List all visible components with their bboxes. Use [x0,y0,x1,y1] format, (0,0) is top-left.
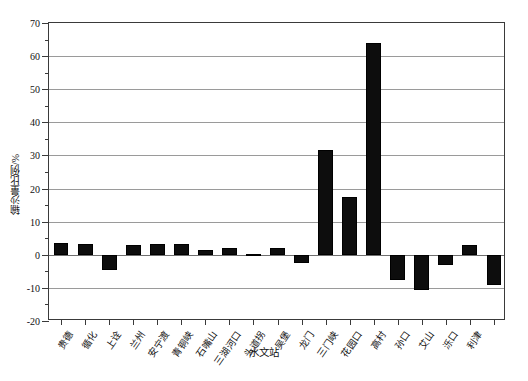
y-tick-minor [45,139,49,140]
bar [318,150,333,254]
y-tick-label: 30 [30,150,40,161]
bar [438,255,453,265]
gridline [49,89,504,90]
bar [462,245,477,255]
bar [54,243,69,255]
y-tick-minor [45,304,49,305]
x-tick [302,319,303,325]
bar [174,244,189,255]
gridline [49,122,504,123]
x-tick [157,319,158,325]
y-tick [42,122,49,123]
x-tick [109,319,110,325]
chart-figure: 输沙量比例/% -20-10010203040506070 贵德循化上诠兰州安宁… [0,0,528,381]
y-tick-minor [45,172,49,173]
x-axis-title-text: 水文站 [249,347,279,358]
x-tick [398,319,399,325]
x-tick [494,319,495,325]
x-tick [181,319,182,325]
y-tick-label: 20 [30,183,40,194]
bar [222,248,237,255]
y-tick-minor [45,238,49,239]
bar [414,255,429,290]
y-tick-minor [45,40,49,41]
bar [126,245,141,255]
x-tick [374,319,375,325]
y-tick-label: 40 [30,117,40,128]
y-tick [42,89,49,90]
bar [342,197,357,255]
x-tick [350,319,351,325]
gridline [49,155,504,156]
y-tick-label: 10 [30,216,40,227]
y-tick [42,23,49,24]
gridline [49,288,504,289]
y-tick-label: -20 [27,316,40,327]
bar [487,255,502,285]
y-tick [42,321,49,322]
gridline [49,56,504,57]
x-axis-title: 水文站 [0,344,528,359]
y-axis-title-text: 输沙量比例/% [8,154,23,215]
x-tick [422,319,423,325]
y-tick [42,189,49,190]
gridline [49,222,504,223]
x-tick [326,319,327,325]
x-tick [229,319,230,325]
y-tick-label: -10 [27,282,40,293]
plot-area: -20-10010203040506070 贵德循化上诠兰州安宁渡青铜峡石嘴山三… [48,22,505,320]
x-tick [278,319,279,325]
y-tick-label: 0 [35,249,40,260]
y-tick-minor [45,205,49,206]
y-tick [42,56,49,57]
x-tick [133,319,134,325]
x-tick [85,319,86,325]
y-tick-minor [45,73,49,74]
bar [198,250,213,254]
x-tick [446,319,447,325]
y-tick [42,288,49,289]
x-tick [253,319,254,325]
y-tick-label: 60 [30,51,40,62]
y-tick-minor [45,271,49,272]
y-tick-minor [45,106,49,107]
bar [366,43,381,255]
y-tick [42,222,49,223]
bar [390,255,405,280]
y-tick [42,255,49,256]
y-tick-label: 50 [30,84,40,95]
y-tick [42,155,49,156]
bar [294,255,309,263]
bar [150,244,165,255]
x-tick [470,319,471,325]
y-tick-label: 70 [30,18,40,29]
zero-line [49,255,504,256]
x-tick [205,319,206,325]
bar [102,255,117,270]
y-axis-title: 输沙量比例/% [6,120,24,250]
gridline [49,189,504,190]
bar [246,254,261,256]
x-tick [61,319,62,325]
bar [78,244,93,255]
bar [270,248,285,255]
